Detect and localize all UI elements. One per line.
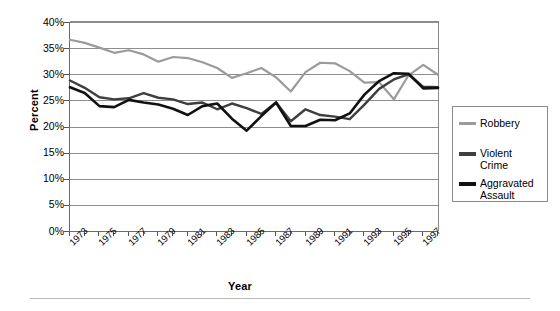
y-axis-tick-label: 5% <box>26 199 64 209</box>
legend-item: Violent Crime <box>459 147 512 171</box>
plot-area <box>69 22 438 232</box>
chart-legend: RobberyViolent CrimeAggravated Assault <box>452 106 548 202</box>
y-axis-tick-mark <box>64 74 69 75</box>
x-axis-title: Year <box>0 280 480 292</box>
series-line <box>70 74 438 121</box>
y-axis-tick-label: 40% <box>26 17 64 27</box>
series-line <box>70 40 438 100</box>
legend-swatch <box>459 122 476 125</box>
legend-swatch <box>459 152 476 156</box>
y-axis-tick-label: 25% <box>26 95 64 105</box>
legend-item: Aggravated Assault <box>459 177 534 201</box>
y-axis-tick-mark <box>64 100 69 101</box>
y-axis-tick-label: 30% <box>26 69 64 79</box>
y-axis-tick-mark <box>64 22 69 23</box>
x-axis-tick-mark <box>187 232 188 236</box>
series-line <box>70 73 438 130</box>
x-axis-tick-mark <box>246 232 247 236</box>
y-axis-tick-mark <box>64 231 69 232</box>
y-axis-tick-label: 15% <box>26 147 64 157</box>
chart-figure: Percent 40%35%30%25%20%15%10%5%0% 197319… <box>0 0 560 311</box>
legend-item: Robbery <box>459 117 520 129</box>
legend-label: Aggravated Assault <box>480 177 534 201</box>
legend-swatch <box>459 182 476 186</box>
legend-label: Robbery <box>480 117 520 129</box>
y-axis-tick-label: 20% <box>26 121 64 131</box>
y-axis-tick-label: 35% <box>26 43 64 53</box>
bottom-divider <box>30 298 530 299</box>
y-axis-tick-label: 0% <box>26 226 64 236</box>
y-axis-tick-mark <box>64 179 69 180</box>
y-axis-tick-mark <box>64 153 69 154</box>
series-lines <box>70 22 438 231</box>
y-axis-tick-mark <box>64 205 69 206</box>
y-axis-tick-mark <box>64 127 69 128</box>
y-axis-tick-mark <box>64 48 69 49</box>
y-axis-tick-labels: 40%35%30%25%20%15%10%5%0% <box>22 0 64 311</box>
y-axis-tick-label: 10% <box>26 173 64 183</box>
x-axis-tick-mark <box>305 232 306 236</box>
legend-label: Violent Crime <box>480 147 512 171</box>
plot-right-border <box>438 21 439 231</box>
